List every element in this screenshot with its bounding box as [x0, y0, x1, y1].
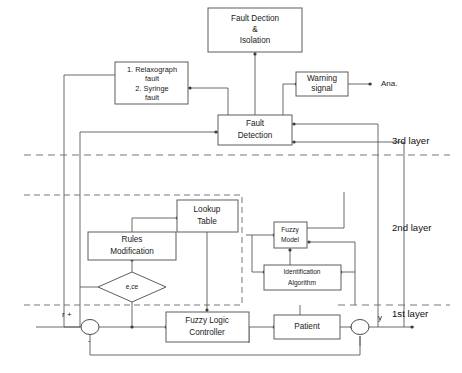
block-fuzzy-model[interactable]: Fuzzy Model: [274, 222, 307, 248]
block-lookup-table[interactable]: Lookup Table: [177, 200, 238, 232]
warning-line2: signal: [311, 84, 333, 93]
arrow-fd-right-in-b: [292, 140, 295, 143]
arrow-flc-top-in: [205, 308, 208, 311]
fault-detection-line2: Detection: [238, 131, 273, 140]
wire-rightbus-to-fuzzymodel-top: [307, 192, 344, 228]
block-fault-list[interactable]: 1. Relaxograph fault 2. Syringe fault: [115, 62, 188, 104]
decision-error-change[interactable]: e,ce: [98, 272, 166, 302]
analysis-label: Ana.: [381, 79, 397, 88]
input-sum-circle: [81, 320, 99, 335]
rules-line1: Rules: [122, 235, 143, 244]
block-fuzzy-logic-controller[interactable]: Fuzzy Logic Controller: [166, 312, 249, 342]
rules-line2: Modification: [110, 247, 154, 256]
block-identification-algorithm[interactable]: Identification Algorithm: [264, 265, 341, 290]
block-diagram: Fault Dection & Isolation 1. Relaxograph…: [0, 0, 462, 373]
arrow-output-y: [410, 325, 413, 328]
block-fault-detection[interactable]: Fault Detection: [218, 115, 292, 145]
block-warning-signal[interactable]: Warning signal: [296, 72, 348, 96]
wire-lookup-to-rules: [132, 218, 175, 232]
output-sum-circle: [351, 320, 369, 335]
block-patient[interactable]: Patient: [274, 315, 340, 339]
tap-error-trunk: [130, 325, 133, 328]
block-rules-modification[interactable]: Rules Modification: [88, 232, 176, 260]
fault-list-line4: fault: [145, 93, 159, 102]
fuzzy-model-line1: Fuzzy: [281, 226, 299, 234]
flc-line1: Fuzzy Logic: [185, 316, 229, 325]
lookup-line1: Lookup: [194, 205, 221, 214]
error-diamond-label: e,ce: [126, 283, 139, 290]
patient-label: Patient: [294, 322, 320, 331]
summing-junction-input: [81, 320, 99, 335]
arrow-fd-right-in-a: [292, 122, 295, 125]
fuzzy-model-line2: Model: [281, 236, 299, 243]
fdi-line2: &: [252, 25, 258, 34]
layer-label-second: 2nd layer: [392, 222, 432, 233]
wire-ident-left-bus: [252, 235, 262, 272]
ident-line2: Algorithm: [288, 279, 316, 287]
fdi-line3: Isolation: [240, 36, 271, 45]
arrow-faultlist-in: [188, 86, 191, 89]
fault-list-line1: 1. Relaxograph: [127, 65, 177, 74]
arrow-fuzzymodel-bottom-in: [288, 248, 291, 251]
reference-label: r +: [62, 310, 72, 319]
summing-junction-output: [351, 320, 369, 335]
block-diagram-canvas: Fault Dection & Isolation 1. Relaxograph…: [0, 0, 462, 373]
negative-sign-label: -: [88, 337, 91, 344]
arrow-fd-left-in: [214, 130, 217, 133]
wire-fd-to-faultlist: [188, 88, 228, 115]
arrow-ana-out: [368, 82, 371, 85]
layer-label-third: 3rd layer: [392, 135, 430, 146]
fault-list-line3: 2. Syringe: [135, 84, 168, 93]
ident-line1: Identification: [283, 268, 320, 275]
block-fault-detection-isolation[interactable]: Fault Dection & Isolation: [208, 8, 302, 52]
fdi-line1: Fault Dection: [231, 14, 280, 23]
warning-line1: Warning: [307, 74, 338, 83]
wire-fd-to-warning: [283, 84, 294, 115]
layer-label-first: 1st layer: [392, 308, 429, 319]
flc-line2: Controller: [189, 328, 225, 337]
fault-list-line2: fault: [145, 74, 159, 83]
arrow-fdi-in: [253, 52, 256, 55]
output-label: y: [378, 313, 382, 322]
lookup-line2: Table: [197, 217, 217, 226]
fault-detection-line1: Fault: [246, 119, 265, 128]
